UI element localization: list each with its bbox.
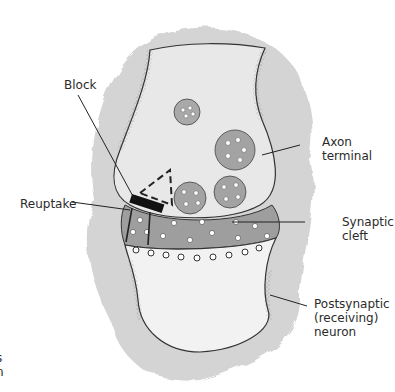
label-postsynaptic-line1: Postsynaptic <box>314 297 390 311</box>
label-postsynaptic-line2: (receiving) <box>314 311 390 325</box>
label-postsynaptic-neuron: Postsynaptic (receiving) neuron <box>314 297 390 339</box>
label-synaptic-cleft-line1: Synaptic <box>342 215 394 229</box>
label-synaptic-cleft: Synaptic cleft <box>342 215 394 243</box>
label-axon-terminal-line2: terminal <box>322 149 372 163</box>
label-synaptic-cleft-line2: cleft <box>342 229 394 243</box>
label-cutoff-left: s n <box>0 351 4 379</box>
vesicle <box>174 99 200 125</box>
label-postsynaptic-line3: neuron <box>314 325 390 339</box>
label-axon-terminal-line1: Axon <box>322 135 372 149</box>
label-cutoff-line2: n <box>0 365 4 379</box>
label-cutoff-line1: s <box>0 351 4 365</box>
label-axon-terminal: Axon terminal <box>322 135 372 163</box>
vesicle <box>215 130 255 170</box>
vesicle <box>214 176 246 208</box>
vesicle <box>174 182 206 214</box>
label-block: Block <box>64 78 96 92</box>
label-reuptake: Reuptake <box>20 197 76 211</box>
